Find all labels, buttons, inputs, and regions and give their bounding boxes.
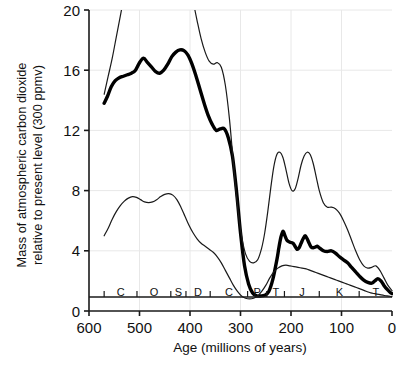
- y-tick-label-12: 12: [63, 122, 80, 139]
- period-label-ordovician: O: [150, 286, 159, 298]
- x-tick-label-400: 400: [177, 319, 202, 336]
- co2-age-chart: 048121620 6005004003002001000 COSDCPTJKT…: [0, 0, 418, 365]
- x-tick-label-600: 600: [76, 319, 101, 336]
- period-label-tertiary: T: [372, 286, 379, 298]
- y-tick-label-16: 16: [63, 62, 80, 79]
- period-label-devonian: D: [194, 286, 202, 298]
- y-axis-title-line2: relative to present level (300 ppmv): [30, 65, 45, 265]
- x-tick-label-0: 0: [388, 319, 396, 336]
- y-tick-label-4: 4: [72, 242, 80, 259]
- period-label-carboniferous: C: [225, 286, 233, 298]
- x-tick-label-300: 300: [228, 319, 253, 336]
- y-axis-title-line1: Mass of atmospheric carbon dioxide: [14, 63, 29, 268]
- period-label-permian: P: [253, 286, 260, 298]
- period-label-cretaceous: K: [336, 286, 344, 298]
- y-tick-label-0: 0: [72, 303, 80, 320]
- x-axis-title: Age (millions of years): [173, 340, 307, 355]
- period-label-silurian: S: [175, 286, 182, 298]
- period-label-triassic: T: [272, 286, 279, 298]
- x-tick-label-200: 200: [278, 319, 303, 336]
- y-tick-label-8: 8: [72, 182, 80, 199]
- x-tick-label-500: 500: [127, 319, 152, 336]
- chart-canvas: 048121620 6005004003002001000 COSDCPTJKT…: [0, 0, 418, 365]
- period-label-jurassic: J: [299, 286, 305, 298]
- y-tick-label-20: 20: [63, 2, 80, 19]
- period-label-cambrian: C: [117, 286, 125, 298]
- x-tick-label-100: 100: [329, 319, 354, 336]
